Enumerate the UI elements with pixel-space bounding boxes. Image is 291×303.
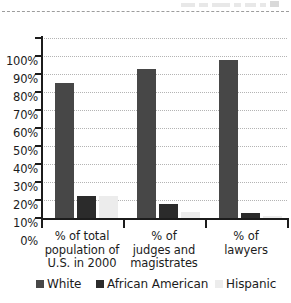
legend-item-hispanic[interactable]: Hispanic [215,278,276,290]
y-axis-tick-mark [35,145,41,147]
bar-white [219,60,238,218]
y-axis-tick-label: 0% [20,236,38,248]
bar-african-american [159,204,178,218]
page-top-strip [0,0,291,14]
dashed-divider [2,11,289,12]
y-axis-tick-label: 70% [13,110,38,122]
bar-group [41,38,123,218]
bar-white [137,69,156,218]
legend-swatch-icon [36,280,44,288]
bar-group [205,38,287,218]
x-axis-category-line: U.S. in 2000 [41,257,123,271]
bar-hispanic [99,196,118,219]
x-axis-category-labels: % of totalpopulation ofU.S. in 2000% ofj… [41,230,289,274]
x-axis-category-line: % of total [41,230,123,244]
x-axis-tick-mark [123,220,125,228]
y-axis-tick-label: 30% [13,182,38,194]
plot-area [41,38,287,218]
x-axis-category-line: % of [205,230,287,244]
bar-chart: 100%90%80%70%60%50%40%30%20%10%0% % of t… [0,14,291,274]
y-axis-tick-mark [35,91,41,93]
x-axis-tick-mark [287,220,289,228]
legend-swatch-icon [96,280,104,288]
y-axis-tick-mark [35,163,41,165]
x-axis-category-line: judges and [123,244,205,258]
x-axis-category-label: % of totalpopulation ofU.S. in 2000 [41,230,123,271]
legend-item-african-american[interactable]: African American [96,278,208,290]
legend-item-label: Hispanic [226,278,276,290]
y-axis-tick-mark [35,109,41,111]
y-axis-tick-mark [35,55,41,57]
y-axis-tick-mark [35,37,41,39]
y-axis-tick-labels: 100%90%80%70%60%50%40%30%20%10%0% [0,38,38,218]
y-axis-tick-label: 80% [13,92,38,104]
y-axis-tick-label: 20% [13,200,38,212]
legend-item-label: White [47,278,81,290]
legend-item-label: African American [107,278,208,290]
y-axis-tick-label: 50% [13,146,38,158]
bar-white [55,83,74,218]
y-axis-tick-mark [35,127,41,129]
y-axis-tick-mark [35,199,41,201]
y-axis-tick-label: 100% [6,56,38,68]
y-axis-tick-label: 90% [13,74,38,86]
chart-legend: WhiteAfrican AmericanHispanic [0,278,291,298]
bar-african-american [77,196,96,218]
legend-swatch-icon [215,280,223,288]
x-axis-category-label: % oflawyers [205,230,287,257]
x-axis-category-line: population of [41,244,123,258]
legend-item-white[interactable]: White [36,278,81,290]
x-axis-category-label: % ofjudges andmagistrates [123,230,205,271]
cropped-header-fragment [159,0,279,7]
x-axis-line [41,218,289,220]
y-axis-tick-mark [35,181,41,183]
y-axis-line [41,36,43,220]
x-axis-tick-mark [41,220,43,228]
x-axis-tick-mark [205,220,207,228]
y-axis-tick-label: 40% [13,164,38,176]
x-axis-category-line: lawyers [205,244,287,258]
x-axis-category-line: % of [123,230,205,244]
bar-group [123,38,205,218]
y-axis-tick-label: 60% [13,128,38,140]
x-axis-category-line: magistrates [123,257,205,271]
y-axis-tick-mark [35,217,41,219]
y-axis-tick-mark [35,73,41,75]
y-axis-tick-label: 10% [13,218,38,230]
